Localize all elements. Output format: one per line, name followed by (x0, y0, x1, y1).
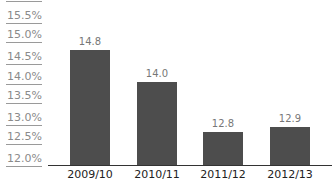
y-tick-label: 12.5% (6, 130, 42, 145)
bar-2011-12 (203, 132, 243, 165)
bar-value-label: 12.8 (203, 118, 243, 129)
bar-2012-13 (270, 127, 310, 165)
y-tick-label: 13.5% (6, 89, 42, 104)
y-tick-label: 13.0% (6, 111, 42, 126)
bar-value-label: 14.8 (70, 36, 110, 47)
y-tick-label: 12.0% (6, 152, 42, 167)
bar-2010-11 (137, 82, 177, 165)
y-tick-label: 15.5% (6, 9, 42, 24)
y-tick-underline-top (6, 1, 42, 2)
bar-value-label: 12.9 (270, 113, 310, 124)
x-tick-label: 2010/11 (127, 168, 187, 181)
y-tick-label: 14.0% (6, 70, 42, 85)
x-tick-label: 2009/10 (60, 168, 120, 181)
y-tick-label: 14.5% (6, 50, 42, 65)
y-tick-label: 15.0% (6, 28, 42, 43)
x-tick-label: 2012/13 (260, 168, 320, 181)
x-tick-label: 2011/12 (193, 168, 253, 181)
x-axis-line (48, 165, 332, 166)
bar-2009-10 (70, 50, 110, 165)
bar-value-label: 14.0 (137, 68, 177, 79)
